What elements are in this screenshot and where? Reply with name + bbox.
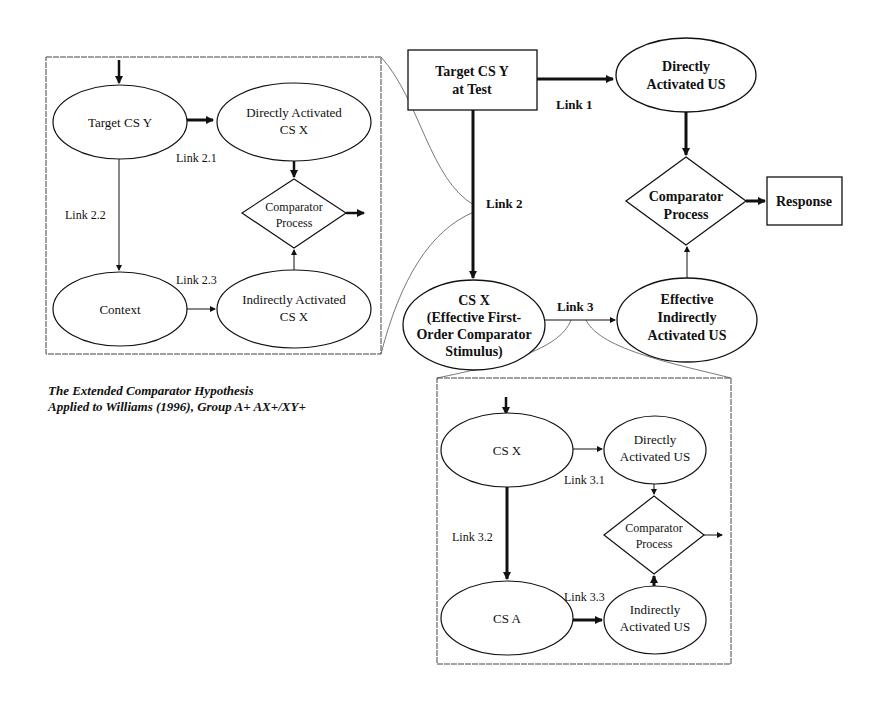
caption-line-2: Applied to Williams (1996), Group A+ AX+… <box>48 399 306 415</box>
svg-text:Comparator: Comparator <box>625 521 682 535</box>
svg-text:Activated US: Activated US <box>620 619 690 634</box>
svg-text:Indirectly: Indirectly <box>630 602 681 617</box>
svg-text:Effective: Effective <box>661 292 714 307</box>
svg-text:Activated US: Activated US <box>647 77 726 92</box>
target-cs-y-box: Target CS Y at Test <box>408 50 537 110</box>
svg-text:Stimulus): Stimulus) <box>445 344 503 360</box>
cs-x-node: CS X (Effective First- Order Comparator … <box>403 280 545 370</box>
svg-text:Directly: Directly <box>662 59 710 74</box>
svg-text:CS A: CS A <box>493 611 521 626</box>
link-1-label: Link 1 <box>556 97 593 112</box>
link-3-label: Link 3 <box>557 299 594 314</box>
target-label-2: at Test <box>452 82 492 97</box>
link-2-2-label: Link 2.2 <box>65 208 106 222</box>
svg-text:CS X: CS X <box>280 122 309 137</box>
comparator-process-diamond: Comparator Process <box>626 157 746 245</box>
caption-line-1: The Extended Comparator Hypothesis <box>48 383 306 399</box>
svg-text:CS X: CS X <box>458 293 490 308</box>
response-box: Response <box>767 177 842 225</box>
svg-text:CS X: CS X <box>280 309 309 324</box>
svg-text:Directly: Directly <box>634 432 677 447</box>
link-2-label: Link 2 <box>486 196 523 211</box>
svg-text:Target CS Y: Target CS Y <box>88 115 153 130</box>
link-3-1-label: Link 3.1 <box>564 473 605 487</box>
svg-text:Process: Process <box>276 216 313 230</box>
svg-text:Directly Activated: Directly Activated <box>246 105 342 120</box>
svg-text:CS X: CS X <box>493 443 522 458</box>
svg-text:Context: Context <box>99 302 141 317</box>
link-2-1-label: Link 2.1 <box>176 151 217 165</box>
svg-text:Response: Response <box>776 194 832 209</box>
svg-text:(Effective First-: (Effective First- <box>427 310 522 326</box>
svg-text:Comparator: Comparator <box>649 189 724 204</box>
link-3-2-label: Link 3.2 <box>452 530 493 544</box>
left-detail-panel: Target CS Y Directly Activated CS X Comp… <box>46 57 381 354</box>
effective-indirectly-activated-us-node: Effective Indirectly Activated US <box>617 278 757 362</box>
svg-text:Activated US: Activated US <box>648 328 727 343</box>
comparator-diagram: Target CS Y at Test Directly Activated U… <box>0 0 891 705</box>
bottom-detail-panel: CS X Directly Activated US Comparator Pr… <box>437 378 731 664</box>
svg-text:Process: Process <box>664 207 709 222</box>
figure-caption: The Extended Comparator Hypothesis Appli… <box>48 383 306 415</box>
target-label-1: Target CS Y <box>435 64 509 79</box>
svg-text:Activated US: Activated US <box>620 449 690 464</box>
svg-text:Comparator: Comparator <box>265 200 322 214</box>
svg-text:Indirectly Activated: Indirectly Activated <box>242 292 346 307</box>
svg-text:Order Comparator: Order Comparator <box>416 327 531 342</box>
svg-text:Indirectly: Indirectly <box>658 310 717 325</box>
link-2-3-label: Link 2.3 <box>176 273 217 287</box>
svg-text:Process: Process <box>636 537 673 551</box>
directly-activated-us-node: Directly Activated US <box>616 38 756 112</box>
link-3-3-label: Link 3.3 <box>564 590 605 604</box>
